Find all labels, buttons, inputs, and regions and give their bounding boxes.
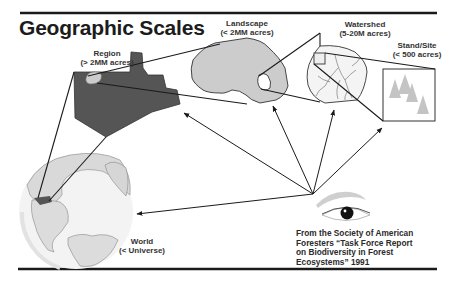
stand-site-range: (< 500 acres) — [382, 50, 452, 59]
region-label: Region (> 2MM acres) — [72, 49, 142, 67]
region-range: (> 2MM acres) — [72, 58, 142, 67]
landscape-label: Landscape (< 2MM acres) — [207, 19, 287, 37]
stand-site-name: Stand/Site — [382, 41, 452, 50]
world-range: (< Universe) — [112, 246, 172, 255]
region-name: Region — [72, 49, 142, 58]
watershed-name: Watershed — [325, 20, 405, 29]
watershed-range: (5-20M acres) — [325, 29, 405, 38]
landscape-name: Landscape — [207, 19, 287, 28]
landscape-range: (< 2MM acres) — [207, 28, 287, 37]
citation: From the Society of American Foresters “… — [296, 229, 446, 267]
stand-site-label: Stand/Site (< 500 acres) — [382, 41, 452, 59]
watershed-label: Watershed (5-20M acres) — [325, 20, 405, 38]
view-arrows — [137, 106, 382, 214]
stand-site-box — [383, 69, 435, 121]
eye-icon — [316, 192, 370, 221]
citation-line: Ecosystems” 1991 — [296, 258, 446, 268]
page-title: Geographic Scales — [19, 16, 205, 40]
world-label: World (< Universe) — [112, 237, 172, 255]
world-name: World — [112, 237, 172, 246]
